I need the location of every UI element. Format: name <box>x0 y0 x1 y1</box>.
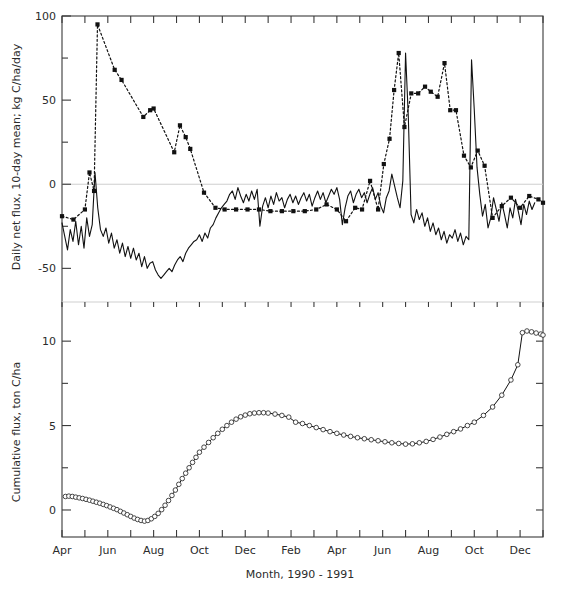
data-point-marker-square <box>392 88 396 92</box>
x-tick-label-20: Dec <box>509 544 530 557</box>
data-point-marker-circle <box>396 441 401 446</box>
data-point-marker-square <box>60 214 64 218</box>
data-point-marker-square <box>454 108 458 112</box>
data-point-marker-square <box>213 206 217 210</box>
data-point-marker-circle <box>383 439 388 444</box>
x-tick-label-6: Oct <box>190 544 210 557</box>
x-tick-label-8: Dec <box>235 544 256 557</box>
x-tick-label-16: Aug <box>418 544 439 557</box>
data-point-marker-circle <box>321 427 326 432</box>
data-point-marker-circle <box>257 410 262 415</box>
x-tick-label-0: Apr <box>52 544 72 557</box>
data-point-marker-circle <box>197 450 202 455</box>
data-point-marker-circle <box>170 493 175 498</box>
data-point-marker-circle <box>273 412 278 417</box>
data-point-marker-circle <box>525 329 530 334</box>
data-point-marker-circle <box>206 440 211 445</box>
data-point-marker-circle <box>183 471 188 476</box>
series-cumulative-flux <box>65 331 543 521</box>
data-point-marker-square <box>482 164 486 168</box>
x-tick-label-2: Jun <box>98 544 116 557</box>
data-point-marker-circle <box>300 421 305 426</box>
data-point-marker-circle <box>314 425 319 430</box>
data-point-marker-square <box>141 115 145 119</box>
two-panel-flux-chart: Daily net flux, 10-day mean; kg C/ha/day… <box>0 0 572 592</box>
data-point-marker-square <box>442 61 446 65</box>
data-point-marker-circle <box>225 423 230 428</box>
data-point-marker-circle <box>376 438 381 443</box>
data-point-marker-circle <box>541 333 546 338</box>
data-point-marker-circle <box>458 427 463 432</box>
data-point-marker-square <box>368 179 372 183</box>
data-point-marker-circle <box>234 417 239 422</box>
data-point-marker-circle <box>390 440 395 445</box>
data-point-marker-square <box>303 209 307 213</box>
data-point-marker-circle <box>516 362 521 367</box>
data-point-marker-square <box>462 154 466 158</box>
data-point-marker-square <box>119 78 123 82</box>
data-point-marker-circle <box>266 411 271 416</box>
y-tick-label-bottom-0: 0 <box>49 504 56 517</box>
data-point-marker-circle <box>293 420 298 425</box>
data-point-marker-circle <box>229 420 234 425</box>
data-point-marker-square <box>353 206 357 210</box>
data-point-marker-square <box>360 207 364 211</box>
data-point-marker-circle <box>451 429 456 434</box>
data-point-marker-square <box>280 209 284 213</box>
data-point-marker-circle <box>156 511 161 516</box>
x-tick-label-18: Oct <box>465 544 485 557</box>
data-point-marker-square <box>509 196 513 200</box>
data-point-marker-square <box>314 207 318 211</box>
data-point-marker-circle <box>529 330 534 335</box>
data-point-marker-square <box>376 207 380 211</box>
data-point-marker-square <box>113 68 117 72</box>
data-point-marker-circle <box>403 442 408 447</box>
data-point-marker-circle <box>472 420 477 425</box>
data-point-marker-square <box>172 150 176 154</box>
data-point-marker-square <box>257 207 261 211</box>
data-point-marker-square <box>527 194 531 198</box>
y-tick-label-top-3: 100 <box>35 10 56 23</box>
data-point-marker-square <box>152 106 156 110</box>
data-point-marker-square <box>436 95 440 99</box>
data-point-marker-square <box>476 148 480 152</box>
data-point-marker-square <box>223 207 227 211</box>
y-tick-label-bottom-2: 10 <box>42 335 56 348</box>
data-point-marker-circle <box>445 432 450 437</box>
data-point-marker-circle <box>173 488 178 493</box>
data-point-marker-square <box>387 137 391 141</box>
data-point-marker-circle <box>163 503 168 508</box>
data-point-marker-square <box>87 170 91 174</box>
data-point-marker-circle <box>252 411 257 416</box>
data-point-marker-circle <box>159 507 164 512</box>
data-point-marker-circle <box>215 431 220 436</box>
data-point-marker-circle <box>335 431 340 436</box>
data-point-marker-square <box>491 216 495 220</box>
data-point-marker-square <box>469 165 473 169</box>
data-point-marker-circle <box>220 427 225 432</box>
x-tick-label-4: Aug <box>143 544 164 557</box>
bottom-panel-ylabel: Cumulative flux, ton C/ha <box>10 362 23 502</box>
data-point-marker-circle <box>369 437 374 442</box>
data-point-marker-square <box>324 202 328 206</box>
data-point-marker-square <box>397 51 401 55</box>
x-tick-label-14: Jun <box>373 544 391 557</box>
data-point-marker-square <box>409 91 413 95</box>
data-point-marker-circle <box>417 440 422 445</box>
data-point-marker-square <box>382 162 386 166</box>
data-point-marker-square <box>335 207 339 211</box>
data-point-marker-square <box>429 90 433 94</box>
data-point-marker-circle <box>243 413 248 418</box>
data-point-marker-square <box>344 219 348 223</box>
data-point-marker-circle <box>490 405 495 410</box>
data-point-marker-square <box>423 85 427 89</box>
data-point-marker-circle <box>180 476 185 481</box>
data-point-marker-circle <box>307 423 312 428</box>
data-point-marker-circle <box>261 410 266 415</box>
data-point-marker-square <box>71 217 75 221</box>
data-point-marker-square <box>536 197 540 201</box>
data-point-marker-square <box>95 22 99 26</box>
data-point-marker-circle <box>248 411 253 416</box>
data-point-marker-square <box>92 189 96 193</box>
data-point-marker-square <box>188 147 192 151</box>
